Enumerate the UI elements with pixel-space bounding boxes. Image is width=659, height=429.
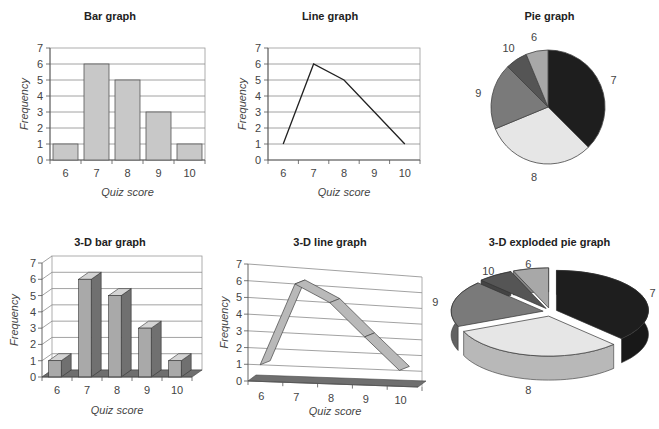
bar [115,80,140,160]
x-tick-label: 6 [280,167,286,179]
x-tick-label: 10 [394,394,406,406]
pie-label: 8 [525,384,531,396]
y-tick-label: 6 [255,58,261,70]
x-axis-label: Quiz score [101,186,154,198]
side-gridline [42,272,52,279]
x-tick-label: 8 [114,384,120,396]
y-tick-label: 2 [236,342,242,354]
plot-frame [268,48,420,160]
bar-side [91,272,101,377]
y-tick-label: 0 [255,154,261,166]
y-tick-label: 1 [236,358,242,370]
y-tick-label: 1 [30,355,36,367]
x-tick-label: 8 [124,167,130,179]
y-tick-label: 0 [30,371,36,383]
pie-label: 7 [611,74,617,86]
data-line [283,64,405,144]
pie3d-graph-plot: 610978 [440,220,659,429]
y-tick-label: 7 [37,42,43,54]
x-axis-label: Quiz score [91,404,144,416]
side-gridline [42,337,52,344]
y-axis-label: Frequency [236,77,248,130]
x-tick-label: 7 [84,384,90,396]
y-tick-label: 2 [255,122,261,134]
gridline [248,314,422,324]
y-tick-label: 6 [30,273,36,285]
y-tick-label: 5 [236,291,242,303]
bar-front [49,361,62,377]
pie-label: 6 [531,31,537,43]
bar-front [79,279,92,377]
x-tick-label: 6 [258,390,264,402]
y-tick-label: 4 [37,90,43,102]
pie-label: 10 [482,265,494,277]
x-tick-label: 8 [328,392,334,404]
ribbon-segment [295,280,340,303]
bar [146,112,171,160]
x-tick-label: 9 [144,384,150,396]
bar [177,144,202,160]
y-tick-label: 5 [30,290,36,302]
y-tick-label: 1 [255,138,261,150]
y-tick-label: 4 [236,308,242,320]
line-graph-plot: 01234567678910Quiz scoreFrequency [220,0,440,210]
x-tick-label: 9 [363,393,369,405]
x-tick-label: 7 [293,391,299,403]
gridline [248,264,422,277]
y-tick-label: 5 [37,74,43,86]
y-tick-label: 0 [37,154,43,166]
pie-label: 9 [432,296,438,308]
ribbon-segment [260,280,305,365]
x-tick-label: 8 [341,167,347,179]
side-gridline [42,256,52,263]
x-tick-label: 7 [93,167,99,179]
pie-graph-panel: Pie graph 789106 [440,0,659,210]
y-axis-label: Frequency [18,77,30,130]
pie-label: 7 [649,287,655,299]
y-axis-label: Frequency [8,293,20,346]
pie-graph-plot: 789106 [440,0,659,210]
x-tick-label: 9 [371,167,377,179]
side-gridline [42,321,52,328]
y-tick-label: 7 [236,258,242,270]
y-tick-label: 3 [236,325,242,337]
pie-label: 8 [531,171,537,183]
y-tick-label: 3 [30,322,36,334]
floor [248,375,426,387]
y-tick-label: 2 [30,338,36,350]
x-axis-label: Quiz score [318,186,371,198]
x-tick-label: 6 [54,384,60,396]
x-tick-label: 6 [62,167,68,179]
y-tick-label: 3 [255,106,261,118]
bar-side [121,289,131,377]
y-tick-label: 3 [37,106,43,118]
line-graph-panel: Line graph 01234567678910Quiz scoreFrequ… [220,0,440,210]
bar [53,144,78,160]
y-tick-label: 0 [236,375,242,387]
x-tick-label: 9 [155,167,161,179]
side-gridline [42,305,52,312]
bar3d-graph-plot: 01234567678910Quiz scoreFrequency [0,220,220,429]
bar [84,64,109,160]
bar-graph-plot: 01234567678910Quiz scoreFrequency [0,0,220,210]
y-tick-label: 1 [37,138,43,150]
bar-front [169,361,182,377]
pie3d-graph-panel: 3-D exploded pie graph 610978 [440,220,659,429]
y-tick-label: 4 [30,306,36,318]
bar-graph-panel: Bar graph 01234567678910Quiz scoreFreque… [0,0,220,210]
side-gridline [42,289,52,296]
line3d-graph-panel: 3-D line graph 01234567678910Quiz scoreF… [220,220,440,429]
y-tick-label: 7 [255,42,261,54]
y-tick-label: 6 [236,275,242,287]
y-axis-label: Frequency [218,295,230,348]
x-tick-label: 10 [399,167,411,179]
gridline [248,281,422,293]
x-axis-label: Quiz score [309,405,362,417]
bar-front [139,328,152,377]
y-tick-label: 2 [37,122,43,134]
pie-label: 6 [525,258,531,270]
x-tick-label: 7 [311,167,317,179]
pie-label: 9 [475,87,481,99]
pie-label: 10 [502,42,514,54]
line3d-graph-plot: 01234567678910Quiz scoreFrequency [220,220,440,429]
